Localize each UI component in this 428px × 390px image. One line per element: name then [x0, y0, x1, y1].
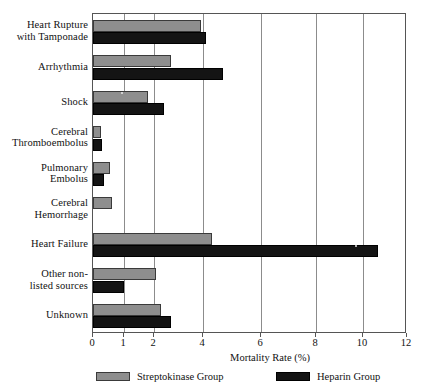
bar-streptokinase — [93, 20, 201, 32]
category-label-line: Cerebral — [0, 126, 88, 138]
bar-heparin — [93, 316, 171, 328]
category-label-line: Other non- — [0, 268, 88, 280]
x-tick-label: 2 — [150, 337, 155, 348]
legend-label-heparin: Heparin Group — [317, 371, 380, 382]
category-label-line: Arrhythmia — [0, 61, 88, 73]
bar-heparin — [93, 32, 206, 44]
bar-heparin — [93, 103, 164, 115]
bar-streptokinase — [93, 304, 161, 316]
bar-streptokinase — [93, 233, 212, 245]
category-label-line: Embolus — [0, 173, 88, 185]
scan-speck — [355, 245, 357, 247]
bar-heparin — [93, 174, 104, 186]
x-tick-label: 8 — [312, 337, 317, 348]
category-label-line: listed sources — [0, 280, 88, 292]
x-axis-title-text: Mortality Rate (%) — [118, 352, 310, 363]
category-label-line: Heart Rupture — [0, 19, 88, 31]
legend-item-streptokinase: Streptokinase Group — [96, 371, 224, 382]
category-label: Other non-listed sources — [0, 268, 88, 291]
gray-swatch-icon — [96, 372, 130, 381]
bar-streptokinase — [93, 162, 110, 174]
category-label: Unknown — [0, 309, 88, 321]
category-label: Heart Failure — [0, 238, 88, 250]
mortality-rate-bar-chart: Heart Rupturewith TamponadeArrhythmiaSho… — [0, 0, 428, 390]
category-axis-labels: Heart Rupturewith TamponadeArrhythmiaSho… — [0, 0, 88, 340]
bar-streptokinase — [93, 197, 112, 209]
category-label-line: Unknown — [0, 309, 88, 321]
category-label: CerebralHemorrhage — [0, 197, 88, 220]
category-label-line: Pulmonary — [0, 162, 88, 174]
category-label: CerebralThromboembolus — [0, 126, 88, 149]
x-tick-label: 1 — [120, 337, 125, 348]
category-label-line: with Tamponade — [0, 31, 88, 43]
x-tick-label: 6 — [257, 337, 262, 348]
category-label-line: Thromboembolus — [0, 137, 88, 149]
scan-speck — [121, 92, 123, 94]
bar-streptokinase — [93, 55, 171, 67]
legend-item-heparin: Heparin Group — [276, 371, 380, 382]
category-label-line: Hemorrhage — [0, 209, 88, 221]
x-tick-label: 10 — [357, 337, 368, 348]
black-swatch-icon — [276, 372, 310, 381]
bar-heparin — [93, 281, 124, 293]
category-label: Shock — [0, 96, 88, 108]
legend-label-streptokinase: Streptokinase Group — [137, 371, 224, 382]
category-label-line: Cerebral — [0, 197, 88, 209]
bar-streptokinase — [93, 268, 156, 280]
category-label-line: Shock — [0, 96, 88, 108]
category-label: Arrhythmia — [0, 61, 88, 73]
x-tick-label: 12 — [401, 337, 412, 348]
chart-legend: Streptokinase Group Heparin Group — [0, 371, 428, 387]
x-tick-label: 0 — [89, 337, 94, 348]
bar-streptokinase — [93, 126, 101, 138]
bar-heparin — [93, 68, 223, 80]
x-axis-title: Mortality Rate (%) — [0, 352, 428, 363]
bar-heparin — [93, 139, 102, 151]
bar-heparin — [93, 245, 378, 257]
x-tick-label: 4 — [199, 337, 204, 348]
category-label-line: Heart Failure — [0, 238, 88, 250]
category-label: Heart Rupturewith Tamponade — [0, 19, 88, 42]
category-label: PulmonaryEmbolus — [0, 162, 88, 185]
bars-layer — [93, 14, 406, 332]
